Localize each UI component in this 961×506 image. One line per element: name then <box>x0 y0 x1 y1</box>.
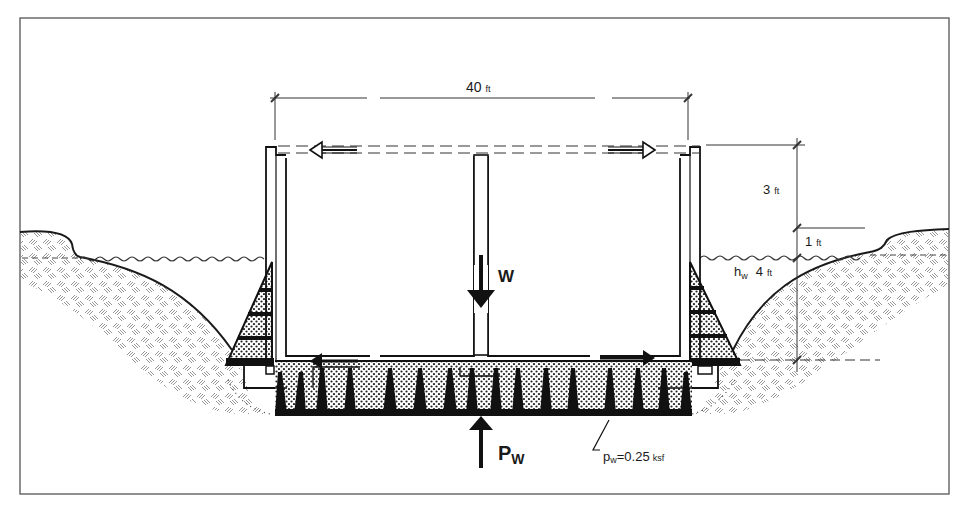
freeboard-label: 3ft <box>763 182 780 197</box>
base-slab <box>275 360 692 415</box>
offset-label: 1ft <box>805 234 822 249</box>
right-earth-bank <box>693 230 949 414</box>
diagram-canvas: W PW pw=0.25ksf 40ft 3ft 1ft hw4ft <box>0 0 961 506</box>
weight-label: W <box>498 267 515 286</box>
draft-label: hw4ft <box>734 264 772 281</box>
width-dimension <box>270 92 692 140</box>
weight-arrow-icon <box>467 255 495 308</box>
pressure-leader-line <box>593 420 609 450</box>
pressure-label: pw=0.25ksf <box>603 449 665 465</box>
box-interior-left <box>286 158 370 356</box>
right-hollow-arrow-icon <box>608 142 655 158</box>
water-surface-left <box>80 257 264 261</box>
box-interior-right <box>488 156 590 356</box>
water-surface-right <box>700 256 860 260</box>
width-label: 40ft <box>466 79 491 95</box>
uplift-label: PW <box>498 442 525 467</box>
uplift-arrow-icon <box>469 416 493 468</box>
left-hollow-arrow-icon <box>310 142 357 158</box>
